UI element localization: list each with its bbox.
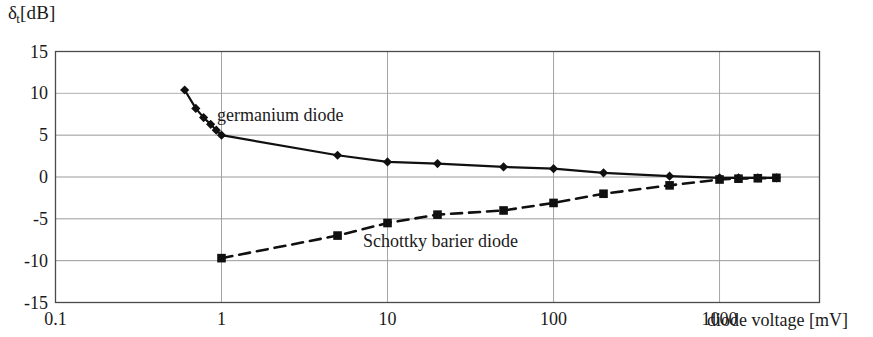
data-point-diamond: [599, 168, 608, 177]
data-point-square: [383, 219, 392, 228]
data-point-square: [217, 254, 226, 263]
data-point-diamond: [665, 172, 674, 181]
data-point-square: [754, 174, 763, 183]
y-tick-label: -5: [0, 210, 48, 228]
y-tick-label: 15: [0, 43, 48, 61]
series-line: [185, 90, 777, 178]
series-germanium: [180, 85, 781, 182]
y-tick-label: -10: [0, 252, 48, 270]
y-tick-label: 0: [0, 168, 48, 186]
data-point-diamond: [499, 162, 508, 171]
data-point-square: [715, 175, 724, 184]
chart-figure: δt[dB] 151050-5-10-15 0.11101001000 germ…: [0, 0, 873, 337]
data-point-square: [599, 189, 608, 198]
x-tick-label: 100: [540, 310, 567, 328]
data-point-diamond: [333, 151, 342, 160]
data-point-square: [499, 206, 508, 215]
series-label-germanium: germanium diode: [217, 105, 343, 125]
data-point-diamond: [383, 157, 392, 166]
data-point-square: [772, 174, 781, 183]
series-label-schottky: Schottky barier diode: [363, 231, 518, 251]
x-tick-label: 10: [379, 310, 397, 328]
data-point-square: [549, 199, 558, 208]
data-point-square: [433, 210, 442, 219]
x-tick-label: 1: [217, 310, 226, 328]
y-tick-label: -15: [0, 294, 48, 312]
data-point-diamond: [433, 159, 442, 168]
plot-canvas: [0, 0, 873, 337]
x-axis-title: diode voltage [mV]: [707, 310, 848, 331]
data-point-square: [333, 231, 342, 240]
data-point-square: [665, 181, 674, 190]
data-point-diamond: [549, 164, 558, 173]
y-tick-label: 10: [0, 84, 48, 102]
data-point-square: [734, 174, 743, 183]
x-tick-label: 0.1: [44, 310, 67, 328]
y-tick-label: 5: [0, 126, 48, 144]
